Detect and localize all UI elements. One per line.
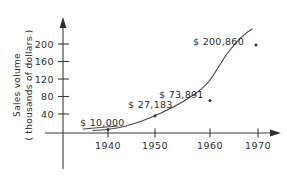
data-label-1960: $ 73,891	[159, 89, 204, 100]
x-tick-label-1950: 1950	[142, 140, 168, 151]
x-tick-label-1960: 1960	[197, 140, 223, 151]
y-tick-label-160: 160	[35, 56, 54, 67]
sales-volume-chart: 200 160 120 80 40 1940 1950 1960 1970 Sa…	[0, 0, 287, 179]
data-point-1970	[254, 43, 257, 46]
y-axis-title-line2: ( thousands of dollars )	[24, 29, 34, 140]
data-point-1960	[208, 99, 211, 102]
y-tick-label-120: 120	[35, 74, 54, 85]
data-label-1950: $ 27,183	[128, 99, 173, 110]
y-tick-label-40: 40	[41, 109, 54, 120]
x-axis-arrow-icon	[270, 130, 281, 137]
x-tick-label-1940: 1940	[95, 140, 121, 151]
data-point-1950	[153, 114, 156, 117]
y-axis-title-line1: Sales volume	[12, 53, 22, 117]
y-tick-label-200: 200	[35, 39, 54, 50]
chart-canvas: 200 160 120 80 40 1940 1950 1960 1970 Sa…	[0, 0, 287, 179]
y-axis-arrow-icon	[60, 17, 67, 28]
data-point-1940	[106, 128, 109, 131]
data-point-markers	[106, 43, 257, 131]
data-label-1970: $ 200,860	[193, 36, 244, 47]
y-tick-label-80: 80	[41, 91, 54, 102]
x-tick-label-1970: 1970	[245, 140, 271, 151]
